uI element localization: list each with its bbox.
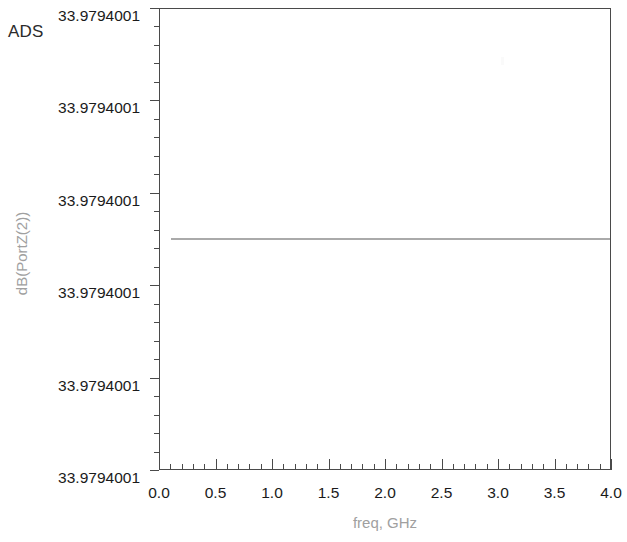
x-axis-minor-tick [588,464,589,470]
x-axis-major-tick [329,459,330,470]
x-axis-major-tick [555,459,556,470]
x-axis-major-tick [498,459,499,470]
x-axis-minor-tick [170,464,171,470]
x-axis-tick-labels: 0.00.51.01.52.02.53.03.54.0 [159,484,611,508]
x-axis-minor-tick [374,464,375,470]
render-artifact [501,57,504,65]
x-axis-minor-tick [182,464,183,470]
x-axis-minor-tick [204,464,205,470]
x-axis-minor-tick [295,464,296,470]
x-axis-minor-tick [306,464,307,470]
x-axis-minor-tick [453,464,454,470]
x-axis-major-tick [442,459,443,470]
x-axis-minor-tick [430,464,431,470]
chart-canvas: ADS dB(PortZ(2)) 33.979400133.979400133.… [0,0,627,542]
x-axis-minor-tick [351,464,352,470]
x-axis-tick-label: 4.0 [600,484,622,502]
x-axis-minor-tick [464,464,465,470]
x-axis-major-tick [272,459,273,470]
x-axis-tick-label: 0.0 [148,484,170,502]
y-axis-tick-label: 33.9794001 [58,192,140,210]
y-axis-major-tick [150,378,159,379]
y-axis-tick-label: 33.9794001 [58,99,140,117]
x-axis-tick-label: 1.0 [261,484,283,502]
x-axis-minor-tick [362,464,363,470]
x-axis-tick-label: 1.5 [318,484,340,502]
x-axis-tick-label: 2.0 [374,484,396,502]
y-axis-major-tick [150,100,159,101]
x-axis-tick-label: 3.0 [487,484,509,502]
y-axis-major-tick [150,470,159,471]
x-axis-minor-tick [487,464,488,470]
y-axis-tick-label: 33.9794001 [58,284,140,302]
data-trace-portz2 [171,238,610,240]
x-axis-minor-tick [408,464,409,470]
x-axis-major-tick [159,459,160,470]
x-axis-minor-tick [340,464,341,470]
x-axis-minor-tick [577,464,578,470]
x-axis-minor-tick [283,464,284,470]
x-axis-minor-tick [238,464,239,470]
x-axis-minor-tick [509,464,510,470]
x-axis-tick-label: 3.5 [544,484,566,502]
x-axis-minor-tick [396,464,397,470]
x-axis-minor-tick [566,464,567,470]
x-axis-major-tick [611,459,612,470]
x-axis-tick-label: 0.5 [205,484,227,502]
x-axis-minor-tick [227,464,228,470]
x-axis-minor-tick [419,464,420,470]
x-axis-minor-tick [261,464,262,470]
y-axis-tick-label: 33.9794001 [58,377,140,395]
x-axis-minor-tick [475,464,476,470]
x-axis-title: freq, GHz [159,514,611,531]
x-axis-minor-tick [193,464,194,470]
x-axis-minor-tick [532,464,533,470]
x-axis-major-tick [385,459,386,470]
x-axis-major-tick [216,459,217,470]
plot-area [159,8,611,470]
x-axis-minor-tick [543,464,544,470]
x-axis-minor-tick [521,464,522,470]
y-axis-major-tick [150,8,159,9]
x-axis-minor-tick [317,464,318,470]
plot-inner [160,9,610,469]
y-axis-tick-label: 33.9794001 [58,7,140,25]
x-axis-tick-label: 2.5 [431,484,453,502]
y-axis-tick-label: 33.9794001 [58,469,140,487]
x-axis-minor-tick [600,464,601,470]
x-axis-minor-tick [249,464,250,470]
y-axis-major-tick [150,285,159,286]
y-axis-major-tick [150,193,159,194]
y-axis-tick-labels: 33.979400133.979400133.979400133.9794001… [0,8,152,470]
